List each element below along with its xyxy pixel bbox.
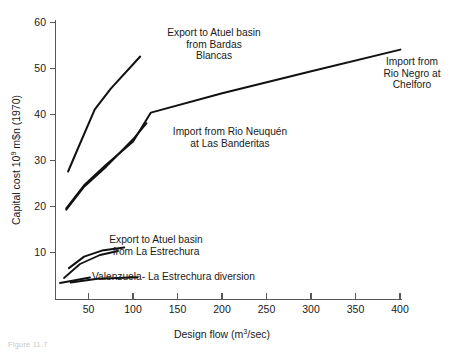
annotation-rio-negro: Import from Rio Negro at Chelforo: [376, 56, 448, 91]
y-tick-label-60: 60: [34, 16, 46, 28]
series-line-rio-neuquen: [66, 123, 146, 210]
annotation-rio-negro-line-1: Import from: [376, 56, 448, 68]
figure-root: 60 50 40 30 20 10 50 100 150 200 250 300…: [0, 0, 449, 355]
y-tick-label-40: 40: [34, 108, 46, 120]
annotation-valenzuela-line-1: Valenzuela- La Estrechura diversion: [92, 271, 342, 283]
annotation-bardas-line-3: Blancas: [152, 50, 276, 62]
x-tick-label-300: 300: [302, 303, 320, 315]
x-tick-label-400: 400: [391, 303, 409, 315]
annotation-rio-negro-line-2: Rio Negro at: [376, 68, 448, 80]
x-tick-label-350: 350: [347, 303, 365, 315]
annotation-la-estrechura: Export to Atuel basin from La Estrechura: [88, 234, 224, 257]
annotation-bardas-blancas: Export to Atuel basin from Bardas Blanca…: [152, 27, 276, 62]
annotation-la-estrechura-line-2: from La Estrechura: [88, 246, 224, 258]
annotation-rio-neuquen-line-2: at Las Banderitas: [168, 138, 292, 150]
annotation-la-estrechura-line-1: Export to Atuel basin: [88, 234, 224, 246]
x-tick-label-250: 250: [258, 303, 276, 315]
x-tick-label-100: 100: [124, 303, 142, 315]
y-tick-label-20: 20: [34, 200, 46, 212]
x-tick-label-200: 200: [213, 303, 231, 315]
y-tick-label-50: 50: [34, 62, 46, 74]
x-tick-label-50: 50: [83, 303, 95, 315]
annotation-valenzuela-diversion: Valenzuela- La Estrechura diversion: [92, 271, 342, 283]
annotation-bardas-line-2: from Bardas: [152, 39, 276, 51]
x-tick-label-150: 150: [169, 303, 187, 315]
x-axis-title: Design flow (m3/sec): [174, 327, 270, 340]
y-axis-title: Capital cost 109 m$n (1970): [9, 95, 22, 225]
annotation-rio-neuquen: Import from Rio Neuquén at Las Banderita…: [168, 126, 292, 149]
annotation-bardas-line-1: Export to Atuel basin: [152, 27, 276, 39]
annotation-rio-negro-line-3: Chelforo: [376, 79, 448, 91]
figure-caption: Figure 11.7: [8, 340, 48, 349]
annotation-rio-neuquen-line-1: Import from Rio Neuquén: [168, 126, 292, 138]
y-tick-label-10: 10: [34, 246, 46, 258]
series-line-bardas-blancas: [68, 57, 140, 172]
y-tick-label-30: 30: [34, 154, 46, 166]
